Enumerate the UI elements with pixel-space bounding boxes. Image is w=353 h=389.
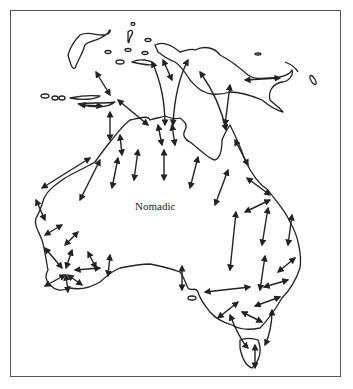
coastline-outline xyxy=(35,23,317,369)
migration-arrows xyxy=(36,60,295,368)
map-canvas xyxy=(0,0,353,389)
map-label-nomadic: Nomadic xyxy=(135,200,175,212)
